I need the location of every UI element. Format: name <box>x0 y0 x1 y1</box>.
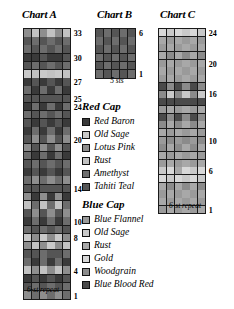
chart-row-label: 4 <box>74 268 78 276</box>
legend-red-cap: Red Cap Red BaronOld SageLotus PinkRustA… <box>82 100 135 193</box>
chart-cell <box>55 250 62 258</box>
chart-cell <box>159 44 166 51</box>
chart-cell <box>55 45 62 53</box>
chart-cell <box>47 86 54 94</box>
legend-red-cap-items: Red BaronOld SageLotus PinkRustAmethystT… <box>82 115 135 193</box>
chart-cell <box>47 176 54 184</box>
chart-cell <box>32 37 39 45</box>
chart-cell <box>32 258 39 266</box>
chart-cell <box>167 29 174 36</box>
chart-cell <box>47 78 54 86</box>
chart-cell <box>190 160 197 167</box>
chart-cell <box>40 144 47 152</box>
chart-b-grid[interactable] <box>95 28 136 79</box>
chart-row-label: 20 <box>74 137 82 145</box>
legend-item[interactable]: Rust <box>82 239 154 252</box>
chart-c-grid[interactable] <box>158 28 206 214</box>
legend-item[interactable]: Old Sage <box>82 128 135 141</box>
chart-cell <box>63 135 70 143</box>
chart-cell <box>32 45 39 53</box>
legend-swatch-icon <box>82 281 90 289</box>
chart-cell <box>40 54 47 62</box>
chart-cell <box>32 275 39 283</box>
chart-cell <box>167 190 174 197</box>
chart-cell <box>175 137 182 144</box>
chart-cell <box>159 29 166 36</box>
legend-item[interactable]: Woodgrain <box>82 265 154 278</box>
chart-cell <box>190 121 197 128</box>
legend-item[interactable]: Gold <box>82 252 154 265</box>
chart-cell <box>182 44 189 51</box>
chart-cell <box>63 45 70 53</box>
chart-cell <box>182 29 189 36</box>
chart-cell <box>128 54 135 62</box>
chart-cell <box>198 167 205 174</box>
chart-cell <box>159 175 166 182</box>
chart-cell <box>32 70 39 78</box>
chart-cell <box>24 86 31 94</box>
chart-cell <box>190 137 197 144</box>
chart-cell <box>190 129 197 136</box>
chart-cell <box>182 52 189 59</box>
chart-cell <box>190 44 197 51</box>
chart-cell <box>63 103 70 111</box>
legend-item[interactable]: Red Baron <box>82 115 135 128</box>
chart-cell <box>55 193 62 201</box>
chart-a-grid[interactable] <box>23 28 71 300</box>
chart-cell <box>32 86 39 94</box>
legend-red-cap-title: Red Cap <box>82 100 135 113</box>
legend-item-label: Rust <box>94 155 111 166</box>
chart-cell <box>167 160 174 167</box>
chart-cell <box>190 83 197 90</box>
legend-item[interactable]: Blue Blood Red <box>82 278 154 291</box>
chart-cell <box>24 234 31 242</box>
chart-cell <box>190 152 197 159</box>
chart-cell <box>32 242 39 250</box>
chart-cell <box>190 106 197 113</box>
chart-cell <box>47 275 54 283</box>
chart-cell <box>63 29 70 37</box>
chart-cell <box>198 83 205 90</box>
chart-cell <box>63 250 70 258</box>
chart-cell <box>55 144 62 152</box>
chart-cell <box>198 114 205 121</box>
chart-cell <box>104 37 111 45</box>
chart-cell <box>198 67 205 74</box>
legend-item-label: Old Sage <box>94 227 129 238</box>
chart-cell <box>55 103 62 111</box>
chart-cell <box>55 78 62 86</box>
chart-cell <box>55 95 62 103</box>
chart-cell <box>40 176 47 184</box>
chart-b-caption: 5 sts <box>84 76 150 85</box>
chart-cell <box>167 67 174 74</box>
chart-row-label: 25 <box>74 96 82 104</box>
chart-cell <box>63 111 70 119</box>
chart-b-gridwrap: 61 <box>95 28 136 79</box>
chart-cell <box>55 119 62 127</box>
chart-cell <box>32 29 39 37</box>
chart-cell <box>32 168 39 176</box>
legend-item[interactable]: Blue Flannel <box>82 213 154 226</box>
chart-cell <box>32 185 39 193</box>
chart-cell <box>112 37 119 45</box>
chart-cell <box>120 54 127 62</box>
chart-cell <box>40 266 47 274</box>
chart-cell <box>63 127 70 135</box>
legend-item[interactable]: Old Sage <box>82 226 154 239</box>
chart-cell <box>40 62 47 70</box>
legend-item[interactable]: Lotus Pink <box>82 141 135 154</box>
chart-cell <box>55 226 62 234</box>
legend-item[interactable]: Rust <box>82 154 135 167</box>
legend-item[interactable]: Amethyst <box>82 167 135 180</box>
chart-cell <box>47 119 54 127</box>
chart-cell <box>198 44 205 51</box>
chart-cell <box>63 258 70 266</box>
chart-cell <box>47 29 54 37</box>
chart-cell <box>175 44 182 51</box>
chart-cell <box>32 266 39 274</box>
legend-item[interactable]: Tahiti Teal <box>82 180 135 193</box>
chart-cell <box>167 114 174 121</box>
chart-cell <box>198 129 205 136</box>
chart-cell <box>182 91 189 98</box>
chart-row-label: 8 <box>74 235 78 243</box>
